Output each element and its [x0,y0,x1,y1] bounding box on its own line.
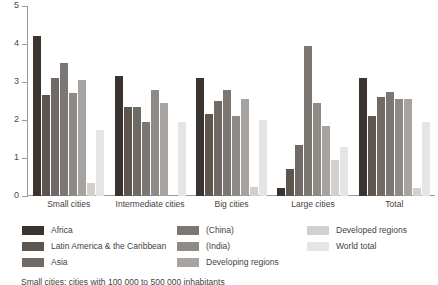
bar [413,188,421,196]
bar [142,122,150,196]
y-tick-label: 1 [0,153,19,162]
bar [259,120,267,196]
legend: AfricaLatin America & the CaribbeanAsia … [22,222,438,270]
bar [286,169,294,196]
bar [331,160,339,196]
legend-swatch-icon [22,242,44,251]
bar [368,116,376,196]
bar [160,103,168,196]
y-tick-label: 2 [0,115,19,124]
legend-item[interactable]: World total [307,238,407,254]
bar [241,99,249,196]
bar-set [272,6,353,196]
legend-label: (India) [206,241,230,251]
bar [151,90,159,196]
legend-item[interactable]: Africa [22,222,166,238]
bar [322,126,330,196]
legend-swatch-icon [177,226,199,235]
x-axis-label: Intermediate cities [109,199,190,209]
x-axis-label: Total [354,199,435,209]
bar-set [354,6,435,196]
bar [232,116,240,196]
bar [96,130,104,197]
legend-label: Latin America & the Caribbean [51,241,166,251]
legend-label: (China) [206,225,234,235]
bar [313,103,321,196]
bar-group [272,6,353,196]
bar [304,46,312,196]
y-tick-label: 3 [0,77,19,86]
bar-set [191,6,272,196]
bar [115,76,123,196]
bar [295,145,303,196]
legend-item[interactable]: Developed regions [307,222,407,238]
bar-set [28,6,109,196]
bar [377,97,385,196]
bar [214,101,222,196]
bar-group [109,6,190,196]
bar-group [354,6,435,196]
legend-item[interactable]: (China) [177,222,279,238]
bar [359,78,367,196]
legend-swatch-icon [307,226,329,235]
legend-label: Developed regions [336,225,407,235]
bar [33,36,41,196]
chart-footnote: Small cities: cities with 100 000 to 500… [21,277,431,285]
legend-item[interactable]: (India) [177,238,279,254]
legend-item[interactable]: Latin America & the Caribbean [22,238,166,254]
bar [250,187,258,197]
legend-item[interactable]: Asia [22,254,166,270]
bar [69,93,77,196]
bar [196,78,204,196]
legend-swatch-icon [22,258,44,267]
bar-group [191,6,272,196]
legend-swatch-icon [22,226,44,235]
bar [42,95,50,196]
bar [60,63,68,196]
bar [178,122,186,196]
legend-item[interactable]: Developing regions [177,254,279,270]
bar [404,99,412,196]
bar-set [109,6,190,196]
x-axis-label: Large cities [272,199,353,209]
y-tick-label: 0 [0,191,19,200]
legend-column-1: AfricaLatin America & the CaribbeanAsia [22,222,166,270]
legend-label: Developing regions [206,257,279,267]
bar-group [28,6,109,196]
bar [422,122,430,196]
bar [386,92,394,197]
legend-swatch-icon [177,242,199,251]
legend-label: World total [336,241,376,251]
bar [78,80,86,196]
x-axis-label: Small cities [28,199,109,209]
y-tick-label: 5 [0,1,19,10]
legend-swatch-icon [177,258,199,267]
bar [124,107,132,196]
bar [205,114,213,196]
y-tick-mark [22,196,28,197]
bar [223,90,231,196]
x-axis-category-labels: Small citiesIntermediate citiesBig citie… [28,199,435,209]
bar [133,107,141,196]
legend-label: Africa [51,225,73,235]
bar [277,188,285,196]
bar-groups [28,6,435,196]
x-axis-label: Big cities [191,199,272,209]
legend-swatch-icon [307,242,329,251]
bar [51,78,59,196]
plot-area: 012345 [0,0,438,200]
legend-column-2: (China)(India)Developing regions [177,222,279,270]
bar [395,99,403,196]
bar [87,183,95,196]
legend-label: Asia [51,257,68,267]
legend-column-3: Developed regionsWorld total [307,222,407,254]
bar [340,147,348,196]
bar-chart: 012345 Small citiesIntermediate citiesBi… [0,0,438,285]
y-tick-label: 4 [0,39,19,48]
